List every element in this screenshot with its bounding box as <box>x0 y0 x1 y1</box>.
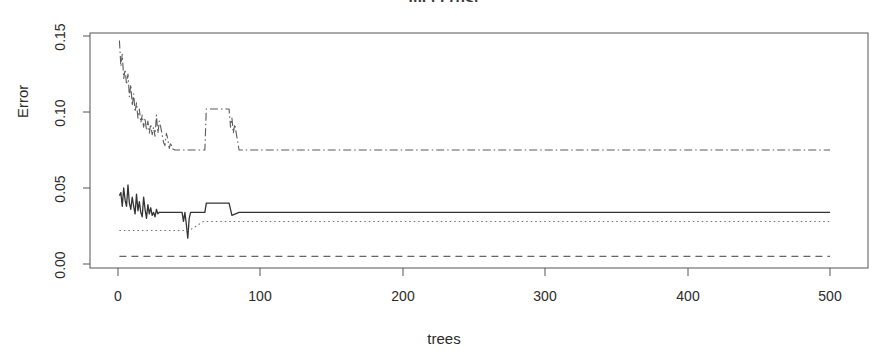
x-axis-ticks <box>118 268 830 276</box>
data-series-layer <box>119 41 830 257</box>
y-axis-ticks <box>83 36 90 264</box>
series-line-class-3-error <box>119 41 830 150</box>
series-line-class-2-error <box>119 221 830 230</box>
series-line-OOB <box>119 185 830 238</box>
chart-figure: mcl.crbst Error trees 0.00 0.05 0.10 0.1… <box>0 0 888 362</box>
plot-canvas <box>0 0 888 362</box>
